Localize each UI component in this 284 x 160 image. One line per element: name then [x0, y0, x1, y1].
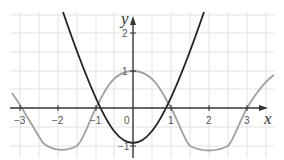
x-tick-label: 1 — [168, 115, 174, 126]
x-axis-label: x — [263, 109, 272, 128]
x-tick-label: 3 — [244, 115, 250, 126]
y-axis-arrow-icon — [130, 16, 136, 25]
x-tick-label: −3 — [14, 115, 26, 126]
y-axis-label: y — [119, 9, 129, 28]
x-tick-label: −1 — [90, 115, 102, 126]
x-tick-label: 2 — [206, 115, 212, 126]
x-tick-label: −2 — [52, 115, 64, 126]
y-tick-label: 1 — [122, 66, 128, 77]
y-tick-label: −1 — [118, 141, 130, 152]
origin-label: 0 — [124, 115, 130, 126]
function-graph: −3 −2 −1 0 1 2 3 2 1 −1 x y — [0, 0, 284, 160]
cosine-curve — [12, 71, 274, 151]
y-tick-label: 2 — [122, 28, 128, 39]
